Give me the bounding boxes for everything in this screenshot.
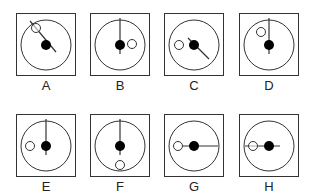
- option-label: E: [16, 180, 76, 194]
- option-figure: [164, 13, 224, 76]
- option-figure: [164, 114, 224, 177]
- option-panel-d[interactable]: D: [239, 13, 299, 93]
- option-label: F: [90, 180, 150, 194]
- center-dot: [115, 141, 125, 151]
- center-dot: [189, 141, 199, 151]
- option-label: C: [164, 79, 224, 93]
- center-dot: [264, 40, 274, 50]
- option-figure: [239, 114, 299, 177]
- option-figure: [16, 13, 76, 76]
- hollow-circle: [257, 28, 266, 37]
- hollow-circle: [174, 142, 183, 151]
- option-label: B: [90, 79, 150, 93]
- hollow-circle: [32, 24, 41, 33]
- hollow-circle: [26, 142, 35, 151]
- option-label: A: [16, 79, 76, 93]
- hollow-circle: [249, 142, 258, 151]
- option-figure: [239, 13, 299, 76]
- center-dot: [264, 141, 274, 151]
- center-dot: [41, 40, 51, 50]
- center-dot: [41, 141, 51, 151]
- hollow-circle: [175, 41, 184, 50]
- option-panel-a[interactable]: A: [16, 13, 76, 93]
- option-figure: [90, 114, 150, 177]
- option-panel-f[interactable]: F: [90, 114, 150, 194]
- center-dot: [189, 40, 199, 50]
- option-panel-b[interactable]: B: [90, 13, 150, 93]
- option-figure: [16, 114, 76, 177]
- hollow-circle: [128, 40, 137, 49]
- option-panel-g[interactable]: G: [164, 114, 224, 194]
- option-label: G: [164, 180, 224, 194]
- option-figure: [90, 13, 150, 76]
- center-dot: [115, 40, 125, 50]
- option-label: H: [239, 180, 299, 194]
- option-panel-e[interactable]: E: [16, 114, 76, 194]
- option-panel-c[interactable]: C: [164, 13, 224, 93]
- hollow-circle: [116, 161, 125, 170]
- option-panel-h[interactable]: H: [239, 114, 299, 194]
- option-label: D: [239, 79, 299, 93]
